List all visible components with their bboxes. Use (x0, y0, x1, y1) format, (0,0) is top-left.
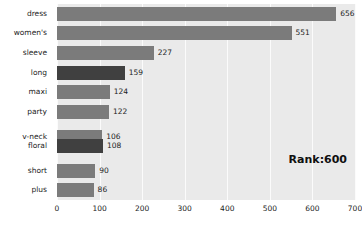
value-label-maxi: 124 (114, 88, 128, 96)
gridline (312, 4, 313, 200)
bar-dress (57, 7, 336, 21)
value-label-long: 159 (129, 69, 143, 77)
value-label-short: 90 (99, 167, 109, 175)
rank-annotation: Rank:600 (289, 153, 347, 166)
x-tick-0: 0 (55, 204, 60, 213)
bar-short (57, 164, 95, 178)
bar-women-s (57, 26, 292, 40)
value-label-dress: 656 (340, 10, 354, 18)
bar-party (57, 105, 109, 119)
value-label-plus: 86 (98, 186, 108, 194)
x-tick-100: 100 (92, 204, 106, 213)
category-label-party: party (27, 108, 52, 116)
x-axis-tick-labels: 0100200300400500600700 (57, 200, 355, 216)
category-label-maxi: maxi (29, 88, 52, 96)
bar-floral (57, 139, 103, 153)
category-label-plus: plus (31, 186, 52, 194)
x-tick-300: 300 (178, 204, 192, 213)
category-label-short: short (28, 167, 52, 175)
category-label-women-s: women's (14, 29, 52, 37)
category-label-v-neck: v-neck (22, 133, 52, 141)
category-label-long: long (31, 69, 52, 77)
x-tick-600: 600 (305, 204, 319, 213)
plot-area: 6565512271591241221061089086 Rank:600 (57, 4, 355, 200)
bar-sleeve (57, 46, 154, 60)
x-tick-700: 700 (348, 204, 362, 213)
bar-maxi (57, 85, 110, 99)
value-label-women-s: 551 (296, 29, 310, 37)
y-axis-labels: dresswomen'ssleevelongmaxipartyv-neckflo… (0, 4, 52, 200)
category-label-dress: dress (27, 10, 52, 18)
value-label-sleeve: 227 (158, 49, 172, 57)
bar-plus (57, 183, 94, 197)
value-label-floral: 108 (107, 142, 121, 150)
value-label-party: 122 (113, 108, 127, 116)
category-label-floral: floral (28, 142, 52, 150)
x-tick-200: 200 (135, 204, 149, 213)
gridline (355, 4, 356, 200)
x-tick-500: 500 (263, 204, 277, 213)
x-tick-400: 400 (220, 204, 234, 213)
bar-long (57, 66, 125, 80)
chart-screenshot: 6565512271591241221061089086 Rank:600 dr… (0, 0, 362, 227)
category-label-sleeve: sleeve (23, 49, 52, 57)
value-label-v-neck: 106 (106, 133, 120, 141)
